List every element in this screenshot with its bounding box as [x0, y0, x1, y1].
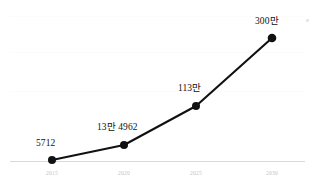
- x-axis-tick-label: 2015: [46, 171, 58, 177]
- line-chart: 5712 13만 4962 113만 300만 2015 2020 2025 2…: [0, 0, 315, 194]
- chart-background: [0, 0, 315, 194]
- data-point-marker[interactable]: [48, 156, 56, 164]
- x-axis-tick-label: 2025: [190, 171, 202, 177]
- data-point-label: 300만: [255, 17, 279, 27]
- corner-artifact-mark: [306, 19, 309, 22]
- chart-canvas: [0, 0, 315, 194]
- data-point-marker[interactable]: [192, 102, 200, 110]
- data-point-marker[interactable]: [120, 141, 128, 149]
- data-point-label: 113만: [178, 84, 201, 94]
- x-axis-tick-label: 2020: [118, 171, 130, 177]
- data-point-label: 5712: [36, 139, 55, 149]
- data-point-marker[interactable]: [268, 34, 277, 43]
- data-point-label: 13만 4962: [97, 123, 138, 133]
- x-axis-tick-label: 2030: [266, 171, 278, 177]
